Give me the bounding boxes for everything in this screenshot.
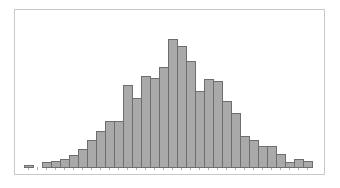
histogram-plot (0, 0, 340, 188)
x-axis-tick (37, 167, 38, 170)
histogram-bar (24, 165, 34, 168)
histogram-bar (303, 161, 313, 168)
